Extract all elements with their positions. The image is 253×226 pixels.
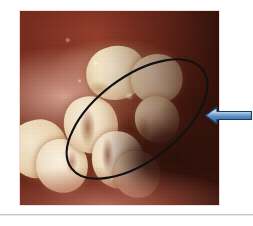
arrow-left-icon [206,107,252,124]
slide-canvas [0,0,253,226]
pointer-arrow [204,105,253,126]
footer-divider-shadow [0,215,253,216]
roi-ellipse [46,36,228,202]
roi-ellipse-stroke [46,36,228,202]
